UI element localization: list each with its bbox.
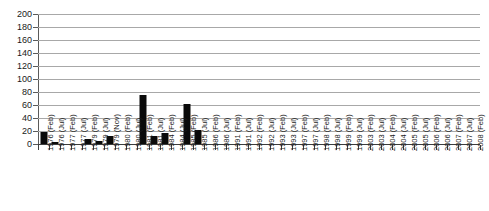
- x-axis-tick-label: 1981 (Feb): [146, 114, 154, 151]
- x-axis-tick-label: 1985 (Feb): [190, 114, 198, 151]
- y-axis-tick-label: 200: [17, 9, 32, 20]
- x-axis-tick-label: 1998 (Feb): [323, 114, 331, 151]
- x-axis-tick-label: 1979 (Feb): [91, 114, 99, 151]
- y-axis-tick-label: 120: [17, 61, 32, 72]
- x-axis-tick-label: 2004 (Feb): [389, 114, 397, 151]
- x-axis-tick-label: 2003 (Jul): [378, 118, 386, 151]
- x-axis-tick-label: 2006 (Jul): [444, 118, 452, 151]
- x-axis-tick-label: 1997 (Feb): [301, 114, 309, 151]
- x-axis-tick-label: 1992 (Feb): [256, 114, 264, 151]
- x-axis-tick-label: 2004 (Jul): [400, 118, 408, 151]
- x-axis-tick-label: 1980 (Jul): [135, 118, 143, 151]
- y-axis-tick-label: 180: [17, 22, 32, 33]
- x-axis-tick-label: 1986 (Feb): [212, 114, 220, 151]
- x-axis-tick-label: 2007 (Jul): [466, 118, 474, 151]
- x-axis-tick-label: 1985 (Jul): [201, 118, 209, 151]
- x-axis-tick-label: 2003 (Feb): [367, 114, 375, 151]
- x-axis-labels: 1976 (Feb)1976 (Jul)1977 (Feb)1977 (Jul)…: [38, 151, 480, 211]
- x-axis-tick-label: 1981 (Jul): [157, 118, 165, 151]
- x-axis-tick-label: 1984 (Feb): [168, 114, 176, 151]
- x-axis-tick-label: 1976 (Feb): [47, 114, 55, 151]
- x-axis-tick-label: 1991 (Feb): [234, 114, 242, 151]
- x-axis-tick-label: 1979 (Jul): [102, 118, 110, 151]
- x-axis-tick-label: 1993 (Feb): [279, 114, 287, 151]
- x-axis-tick-label: 1991 (Jul): [245, 118, 253, 151]
- x-axis-tick-label: 1998 (Jul): [334, 118, 342, 151]
- x-axis-tick-mark: [38, 145, 39, 150]
- x-axis-tick-label: 2006 (Feb): [433, 114, 441, 151]
- x-axis-tick-label: 1977 (Jul): [80, 118, 88, 151]
- x-axis-tick-label: 1992 (Jul): [268, 118, 276, 151]
- x-axis-tick-label: 2005 (Feb): [411, 114, 419, 151]
- x-axis-tick-label: 1984 (Jul): [179, 118, 187, 151]
- x-axis-tick-label: 2007 (Feb): [455, 114, 463, 151]
- x-axis-tick-label: 2005 (Jul): [422, 118, 430, 151]
- x-axis-tick-label: 1977 (Feb): [69, 114, 77, 151]
- x-axis-tick-label: 1976 (Jul): [58, 118, 66, 151]
- x-axis-tick-label: 1980 (Feb): [124, 114, 132, 151]
- y-axis-tick-label: 140: [17, 48, 32, 59]
- y-axis-tick-label: 80: [22, 87, 32, 98]
- y-axis-tick-label: 20: [22, 126, 32, 137]
- x-axis-tick-label: 1999 (Feb): [345, 114, 353, 151]
- y-axis-tick-label: 40: [22, 113, 32, 124]
- x-axis-tick-label: 2008 (Feb): [477, 114, 485, 151]
- bar-chart: 200180160140120100806040200 1976 (Feb)19…: [0, 0, 489, 211]
- y-axis-tick-label: 100: [17, 74, 32, 85]
- y-axis: 200180160140120100806040200: [0, 0, 38, 145]
- x-axis-tick-label: 1986 (Jul): [223, 118, 231, 151]
- x-axis-tick-label: 1993 (Jul): [290, 118, 298, 151]
- x-axis-tick-label: 1997 (Jul): [312, 118, 320, 151]
- y-axis-tick-label: 0: [27, 139, 32, 150]
- x-axis-tick-label: 1999 (Jul): [356, 118, 364, 151]
- y-axis-tick-label: 160: [17, 35, 32, 46]
- x-axis-tick-label: 1979 (Nov): [113, 114, 121, 151]
- y-axis-tick-label: 60: [22, 100, 32, 111]
